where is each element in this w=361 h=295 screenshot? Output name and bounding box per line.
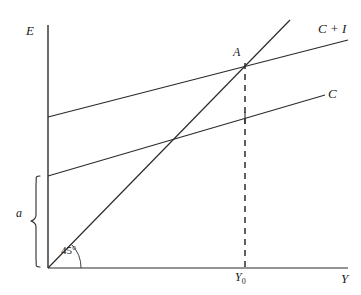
angle-label: 45°	[61, 245, 76, 256]
consumption-line	[48, 95, 325, 176]
autonomous-consumption-brace	[31, 176, 40, 267]
diagram-canvas	[0, 0, 361, 295]
consumption-plus-investment-line	[48, 40, 348, 117]
consumption-plus-investment-label: C + I	[318, 22, 346, 35]
income-axis-label: Y	[341, 272, 348, 285]
keynesian-cross-diagram: E Y A C + I C Y0 a 45°	[0, 0, 361, 295]
equilibrium-income-subscript: 0	[242, 277, 246, 286]
equilibrium-income-label: Y0	[235, 271, 246, 286]
consumption-curve-label: C	[328, 87, 337, 100]
equilibrium-point-label: A	[233, 46, 240, 58]
equilibrium-income-symbol: Y	[235, 270, 242, 284]
autonomous-consumption-label: a	[16, 207, 22, 219]
expenditure-axis-label: E	[26, 24, 34, 37]
forty-five-degree-line	[48, 20, 290, 268]
